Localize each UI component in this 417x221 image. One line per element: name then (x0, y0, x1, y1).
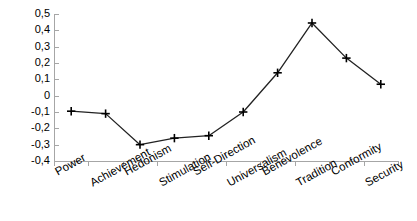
x-axis-tick-mark (364, 161, 365, 166)
y-axis-tick-label: 0 (6, 90, 50, 101)
x-axis-category-labels: PowerAchievementHedonismStimulationSelf-… (54, 167, 398, 221)
y-axis-tick-label: -0,2 (6, 122, 50, 133)
x-axis-tick-mark (157, 161, 158, 166)
data-point-marker (170, 134, 178, 142)
y-axis-tick-label: 0,2 (6, 57, 50, 68)
x-axis-tick-mark (226, 161, 227, 166)
data-point-marker (205, 131, 213, 139)
series-markers (67, 19, 385, 149)
y-axis-tick-labels: 0,50,40,30,20,10-0,1-0,2-0,3-0,4 (0, 14, 50, 162)
value-profile-line-chart: 0,50,40,30,20,10-0,1-0,2-0,3-0,4 PowerAc… (0, 0, 417, 221)
y-axis-tick-label: 0,1 (6, 73, 50, 84)
y-axis-tick-label: -0,4 (6, 155, 50, 166)
x-axis-tick-mark (88, 161, 89, 166)
y-axis-tick-label: 0,3 (6, 41, 50, 52)
y-axis-tick-label: 0,4 (6, 24, 50, 35)
x-axis-tick-mark (295, 161, 296, 166)
y-axis-tick-label: -0,3 (6, 139, 50, 150)
y-axis-tick-label: -0,1 (6, 106, 50, 117)
series-polyline (71, 23, 381, 145)
y-axis-tick-label: 0,5 (6, 8, 50, 19)
data-series-line (54, 14, 398, 161)
plot-area (54, 14, 398, 161)
data-point-marker (67, 107, 75, 115)
